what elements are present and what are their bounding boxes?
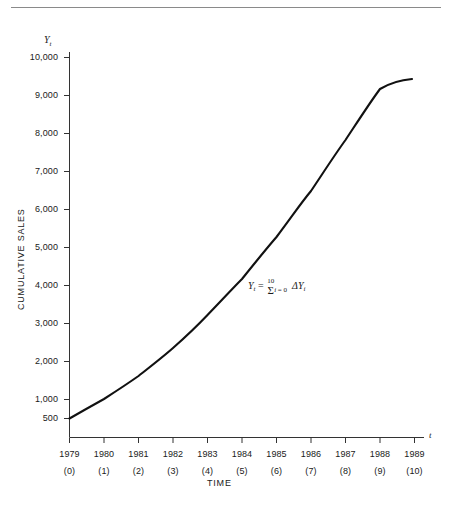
- y-tick-label: 2,000: [14, 356, 58, 366]
- y-tick-label: 500: [14, 413, 58, 423]
- y-tick-label: 8,000: [14, 128, 58, 138]
- equation-equals: =: [258, 280, 264, 291]
- equation-term-sub: i: [304, 285, 306, 293]
- figure-container: Yt 10,000 9,000 8,000 7,000 6,000 5,000 …: [0, 0, 452, 506]
- y-axis-ticks: [64, 58, 70, 419]
- x-axis-symbol: t: [429, 430, 432, 440]
- sigma-icon: Σ: [267, 285, 274, 296]
- y-tick-label: 7,000: [14, 166, 58, 176]
- equation-term: ΔY: [292, 280, 303, 291]
- y-tick-label: 9,000: [14, 90, 58, 100]
- y-tick-label: 1,000: [14, 394, 58, 404]
- equation-annotation: Yt = 10 Σ i = 0 ΔYi: [248, 278, 305, 296]
- data-series-line: [70, 79, 413, 419]
- x-axis-ticks: [70, 438, 415, 444]
- chart-plot-area: Yt 10,000 9,000 8,000 7,000 6,000 5,000 …: [0, 0, 452, 506]
- chart-svg: [0, 0, 452, 506]
- summation-symbol-group: 10 Σ: [267, 278, 274, 296]
- equation-lhs-sub: t: [254, 285, 256, 293]
- y-axis-symbol: Yt: [44, 34, 52, 48]
- x-tick-label: 1989: [395, 449, 435, 459]
- y-tick-label: 3,000: [14, 318, 58, 328]
- x-tick-sublabel: (10): [395, 466, 435, 476]
- summation-lower-limit: i = 0: [274, 287, 287, 294]
- x-axis-title: TIME: [207, 478, 232, 488]
- y-tick-label: 10,000: [14, 52, 58, 62]
- y-axis-title: CUMULATIVE SALES: [16, 208, 26, 310]
